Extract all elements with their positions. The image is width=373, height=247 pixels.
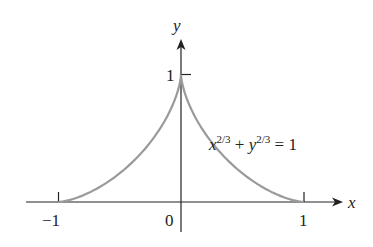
x-tick-label-pos1: 1 [299, 211, 308, 230]
x-axis-label: x [347, 193, 356, 212]
equation-label: x2/3 + y2/3 = 1 [208, 133, 297, 154]
astroid-plot: y x −1 0 1 1 x2/3 + y2/3 = 1 [0, 0, 373, 247]
y-tick-label-1: 1 [166, 66, 175, 85]
x-tick-label-0: 0 [165, 211, 174, 230]
y-axis-label: y [171, 16, 181, 35]
x-tick-label-neg1: −1 [42, 211, 60, 230]
